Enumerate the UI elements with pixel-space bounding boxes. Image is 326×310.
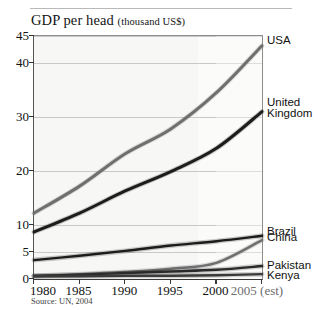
y-tick-label-40: 40 (3, 56, 29, 69)
top-divider-rule (30, 8, 292, 9)
x-tick-mark-1990 (124, 279, 125, 284)
y-tick-mark-5 (29, 251, 34, 252)
series-lines-svg (34, 36, 262, 279)
x-tick-mark-2005 (261, 279, 262, 284)
x-tick-label-1990: 1990 (111, 283, 137, 299)
series-label-united-kingdom: UnitedKingdom (267, 97, 312, 121)
x-tick-label-2005: 2005 (est) (231, 283, 283, 299)
series-line-usa (34, 46, 262, 213)
y-tick-label-10: 10 (3, 218, 29, 231)
plot-area (33, 35, 263, 280)
y-tick-label-5: 5 (3, 245, 29, 258)
source-note: Source: UN, 2004 (31, 296, 93, 306)
y-tick-mark-0 (29, 278, 34, 279)
x-tick-mark-1995 (170, 279, 171, 284)
y-tick-label-20: 20 (3, 164, 29, 177)
series-line-united-kingdom (34, 112, 262, 232)
x-tick-mark-2000 (215, 279, 216, 284)
x-tick-mark-1985 (79, 279, 80, 284)
series-halo-usa (34, 46, 262, 213)
y-tick-mark-45 (29, 35, 34, 36)
y-tick-label-0: 0 (3, 272, 29, 285)
x-tick-label-2000: 2000 (202, 283, 228, 299)
gdp-per-head-line-chart: GDP per head (thousand US$) 051020304045… (0, 0, 326, 310)
series-label-line: USA (267, 35, 291, 47)
y-tick-mark-10 (29, 224, 34, 225)
x-tick-label-1995: 1995 (157, 283, 183, 299)
series-halo-united-kingdom (34, 112, 262, 232)
series-label-usa: USA (267, 35, 291, 47)
series-label-line: China (267, 232, 297, 244)
chart-title-main: GDP per head (31, 12, 114, 28)
y-tick-mark-40 (29, 62, 34, 63)
series-label-kenya: Kenya (267, 270, 300, 282)
y-tick-label-30: 30 (3, 110, 29, 123)
chart-title-unit: (thousand US$) (118, 16, 186, 27)
y-tick-mark-20 (29, 170, 34, 171)
cropped-heading-ghost (32, 0, 292, 7)
series-label-line: Kingdom (267, 108, 312, 120)
chart-title: GDP per head (thousand US$) (31, 12, 185, 29)
x-tick-mark-1980 (33, 279, 34, 284)
y-tick-mark-30 (29, 116, 34, 117)
series-label-china: China (267, 232, 297, 244)
series-label-line: Kenya (267, 270, 300, 282)
y-tick-label-45: 45 (3, 29, 29, 42)
y-axis: 051020304045 (0, 0, 29, 310)
